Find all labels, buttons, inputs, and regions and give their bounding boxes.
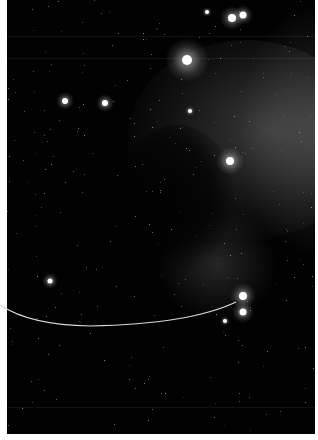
faint-star — [32, 9, 33, 10]
faint-star — [33, 30, 34, 31]
faint-star — [215, 26, 216, 27]
faint-star — [300, 1, 301, 2]
faint-star — [230, 139, 231, 140]
faint-star — [157, 28, 158, 29]
faint-star — [135, 216, 136, 217]
faint-star — [252, 148, 253, 149]
faint-star — [38, 379, 39, 380]
faint-star — [247, 301, 248, 302]
faint-star — [15, 92, 16, 93]
faint-star — [253, 58, 254, 59]
faint-star — [92, 153, 93, 154]
faint-star — [23, 160, 24, 161]
faint-star — [311, 207, 312, 208]
faint-star — [16, 233, 17, 234]
faint-star — [280, 411, 281, 412]
faint-star — [215, 73, 216, 74]
faint-star — [182, 127, 183, 128]
faint-star — [47, 141, 48, 142]
faint-star — [83, 53, 84, 54]
faint-star — [283, 115, 284, 116]
faint-star — [150, 109, 151, 110]
faint-star — [44, 390, 45, 391]
faint-star — [239, 11, 240, 12]
faint-star — [307, 36, 308, 37]
faint-star — [209, 33, 210, 34]
faint-star — [240, 29, 241, 30]
faint-star — [73, 171, 74, 172]
faint-star — [183, 397, 184, 398]
faint-star — [294, 277, 295, 278]
faint-star — [186, 148, 187, 149]
faint-star — [305, 388, 306, 389]
faint-star — [225, 335, 226, 336]
faint-star — [59, 120, 60, 121]
faint-star — [250, 430, 251, 431]
faint-star — [230, 255, 231, 256]
faint-star — [77, 245, 78, 246]
faint-star — [195, 167, 196, 168]
faint-star — [44, 135, 45, 136]
faint-star — [12, 341, 13, 342]
faint-star — [290, 42, 291, 43]
faint-star — [8, 269, 9, 270]
faint-star — [170, 137, 171, 138]
faint-star — [79, 107, 80, 108]
faint-star — [135, 166, 136, 167]
faint-star — [294, 15, 295, 16]
faint-star — [199, 37, 200, 38]
faint-star — [243, 214, 244, 215]
faint-star — [203, 284, 204, 285]
faint-star — [35, 226, 36, 227]
faint-star — [220, 58, 221, 59]
faint-star — [312, 286, 313, 287]
faint-star — [94, 0, 95, 1]
faint-star — [161, 393, 162, 394]
star — [205, 10, 209, 14]
faint-star — [214, 122, 215, 123]
faint-star — [148, 420, 149, 421]
faint-star — [146, 191, 147, 192]
faint-star — [134, 136, 135, 137]
faint-star — [22, 408, 23, 409]
faint-star — [134, 296, 135, 297]
faint-star — [35, 194, 36, 195]
faint-star — [228, 277, 229, 278]
faint-star — [234, 116, 235, 117]
faint-star — [131, 357, 132, 358]
star — [188, 109, 192, 113]
faint-star — [189, 150, 190, 151]
faint-star — [217, 307, 218, 308]
faint-star — [84, 174, 85, 175]
faint-star — [286, 300, 287, 301]
faint-star — [238, 340, 239, 341]
faint-star — [165, 393, 166, 394]
faint-star — [31, 381, 32, 382]
star — [240, 309, 247, 316]
faint-star — [109, 12, 110, 13]
faint-star — [79, 292, 80, 293]
faint-star — [149, 224, 150, 225]
faint-star — [298, 348, 299, 349]
faint-star — [263, 73, 264, 74]
faint-star — [36, 256, 37, 257]
faint-star — [299, 259, 300, 260]
faint-star — [148, 379, 149, 380]
faint-star — [291, 73, 292, 74]
faint-star — [34, 132, 35, 133]
faint-star — [275, 284, 276, 285]
faint-star — [76, 169, 77, 170]
faint-star — [289, 51, 290, 52]
nebula-glow-lower — [157, 210, 277, 320]
faint-star — [82, 192, 83, 193]
faint-star — [267, 351, 268, 352]
faint-star — [102, 267, 103, 268]
faint-star — [7, 211, 8, 212]
faint-star — [214, 417, 215, 418]
faint-star — [182, 93, 183, 94]
faint-star — [129, 365, 130, 366]
faint-star — [201, 161, 202, 162]
star — [223, 319, 227, 323]
faint-star — [303, 264, 304, 265]
faint-star — [146, 39, 147, 40]
